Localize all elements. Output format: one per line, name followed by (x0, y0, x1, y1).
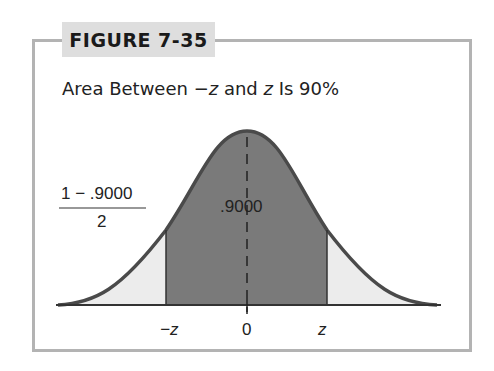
tick-z: z (318, 320, 327, 340)
fraction-denominator: 2 (97, 212, 106, 232)
tick-zero: 0 (242, 320, 251, 340)
center-area-label: .9000 (220, 197, 263, 217)
left-tail-area (58, 230, 166, 305)
tick-neg-z: −z (160, 320, 178, 340)
right-tail-area (327, 230, 437, 305)
fraction-numerator: 1 − .9000 (61, 184, 132, 204)
